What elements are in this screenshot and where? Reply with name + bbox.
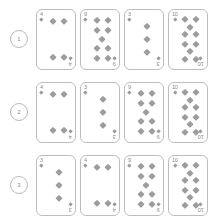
diamond-pip-icon — [137, 128, 143, 134]
diamond-pip-icon — [105, 55, 111, 61]
diamond-pip-icon — [105, 27, 111, 33]
playing-card[interactable]: 33 — [36, 155, 76, 216]
diamond-pip-icon — [193, 177, 199, 183]
card-row: 24433991010 — [0, 79, 223, 145]
diamond-pip-icon — [84, 18, 88, 22]
diamond-pip-icon — [49, 127, 55, 133]
diamond-pip-icon — [61, 17, 67, 23]
diamond-pip-icon — [93, 55, 99, 61]
card-pip-area — [178, 87, 203, 138]
card-pip-area — [46, 87, 71, 138]
diamond-pip-icon — [143, 36, 149, 42]
card-worksheet: 144993310102443399101033344991010 — [0, 0, 223, 220]
card-corner-tl: 10 — [172, 158, 178, 167]
diamond-pip-icon — [137, 190, 143, 196]
diamond-pip-icon — [93, 163, 99, 169]
diamond-pip-icon — [149, 89, 155, 95]
diamond-pip-icon — [49, 17, 55, 23]
diamond-pip-icon — [187, 48, 193, 54]
diamond-pip-icon — [40, 18, 44, 22]
diamond-pip-icon — [143, 23, 149, 29]
row-number-badge: 2 — [10, 103, 28, 121]
diamond-pip-icon — [40, 91, 44, 95]
diamond-pip-icon — [149, 190, 155, 196]
playing-card[interactable]: 44 — [80, 155, 120, 216]
playing-card[interactable]: 99 — [124, 82, 164, 143]
card-corner-tl: 4 — [84, 158, 87, 167]
card-corner-tl: 3 — [40, 158, 43, 167]
playing-card[interactable]: 33 — [124, 9, 164, 70]
diamond-pip-icon — [137, 162, 143, 168]
diamond-pip-icon — [181, 89, 187, 95]
diamond-pip-icon — [93, 16, 99, 22]
playing-card[interactable]: 1010 — [168, 82, 208, 143]
diamond-pip-icon — [193, 187, 199, 193]
diamond-pip-icon — [193, 31, 199, 37]
diamond-pip-icon — [181, 114, 187, 120]
diamond-pip-icon — [137, 173, 143, 179]
diamond-pip-icon — [181, 187, 187, 193]
diamond-pip-icon — [61, 127, 67, 133]
playing-card[interactable]: 99 — [124, 155, 164, 216]
diamond-pip-icon — [173, 164, 177, 168]
diamond-pip-icon — [187, 24, 193, 30]
diamond-pip-icon — [105, 16, 111, 22]
card-corner-tl: 9 — [128, 85, 131, 94]
playing-card[interactable]: 1010 — [168, 155, 208, 216]
card-group: 4433991010 — [36, 82, 223, 143]
card-pip-area — [90, 87, 115, 138]
diamond-pip-icon — [128, 18, 132, 22]
diamond-pip-icon — [181, 177, 187, 183]
diamond-pip-icon — [181, 202, 187, 208]
diamond-pip-icon — [181, 56, 187, 62]
diamond-pip-icon — [105, 44, 111, 50]
diamond-pip-icon — [93, 44, 99, 50]
playing-card[interactable]: 99 — [80, 9, 120, 70]
card-corner-tl: 4 — [40, 12, 43, 21]
card-row: 14499331010 — [0, 6, 223, 72]
card-corner-tl: 10 — [172, 12, 178, 21]
diamond-pip-icon — [61, 90, 67, 96]
diamond-pip-icon — [84, 164, 88, 168]
diamond-pip-icon — [181, 31, 187, 37]
diamond-pip-icon — [93, 200, 99, 206]
diamond-pip-icon — [193, 202, 199, 208]
diamond-pip-icon — [173, 18, 177, 22]
diamond-pip-icon — [193, 56, 199, 62]
diamond-pip-icon — [49, 90, 55, 96]
diamond-pip-icon — [181, 41, 187, 47]
card-corner-tl: 9 — [128, 158, 131, 167]
diamond-pip-icon — [193, 16, 199, 22]
diamond-pip-icon — [55, 169, 61, 175]
diamond-pip-icon — [149, 201, 155, 207]
diamond-pip-icon — [149, 162, 155, 168]
diamond-pip-icon — [149, 173, 155, 179]
diamond-pip-icon — [181, 162, 187, 168]
diamond-pip-icon — [55, 182, 61, 188]
diamond-pip-icon — [93, 27, 99, 33]
card-pip-area — [46, 14, 71, 65]
card-pip-area — [134, 87, 159, 138]
row-number-badge: 3 — [10, 176, 28, 194]
diamond-pip-icon — [181, 104, 187, 110]
diamond-pip-icon — [187, 121, 193, 127]
card-row: 33344991010 — [0, 152, 223, 218]
card-pip-area — [90, 14, 115, 65]
diamond-pip-icon — [187, 194, 193, 200]
diamond-pip-icon — [137, 201, 143, 207]
diamond-pip-icon — [105, 163, 111, 169]
card-corner-tl: 10 — [172, 85, 178, 94]
diamond-pip-icon — [137, 100, 143, 106]
playing-card[interactable]: 44 — [36, 9, 76, 70]
diamond-pip-icon — [193, 129, 199, 135]
diamond-pip-icon — [173, 91, 177, 95]
diamond-pip-icon — [49, 54, 55, 60]
card-pip-area — [134, 14, 159, 65]
diamond-pip-icon — [99, 36, 105, 42]
diamond-pip-icon — [143, 182, 149, 188]
diamond-pip-icon — [181, 129, 187, 135]
playing-card[interactable]: 44 — [36, 82, 76, 143]
playing-card[interactable]: 1010 — [168, 9, 208, 70]
diamond-pip-icon — [128, 91, 132, 95]
playing-card[interactable]: 33 — [80, 82, 120, 143]
